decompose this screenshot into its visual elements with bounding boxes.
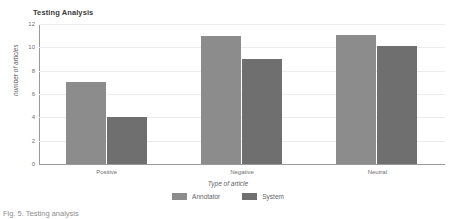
- y-tick-label: 0: [32, 161, 35, 167]
- bar-positive-system: [107, 117, 147, 164]
- y-tick-label: 4: [32, 114, 35, 120]
- legend-label-system: System: [262, 193, 284, 200]
- legend-swatch-system: [242, 193, 257, 200]
- chart-title: Testing Analysis: [33, 8, 93, 17]
- grid-line: [39, 24, 445, 25]
- chart-legend: AnnotatorSystem: [0, 193, 456, 200]
- x-axis-line: [39, 164, 445, 165]
- bar-negative-annotator: [201, 36, 241, 164]
- y-tick-label: 6: [32, 91, 35, 97]
- legend-swatch-annotator: [172, 193, 187, 200]
- y-tick-label: 2: [32, 138, 35, 144]
- legend-item-system[interactable]: System: [242, 193, 284, 200]
- y-tick-label: 8: [32, 68, 35, 74]
- legend-label-annotator: Annotator: [192, 193, 220, 200]
- figure-caption: Fig. 5. Testing analysis: [3, 209, 79, 218]
- bar-positive-annotator: [66, 82, 106, 164]
- x-tick-label-neutral: Neutral: [368, 169, 387, 175]
- bar-negative-system: [242, 59, 282, 164]
- figure-container: Testing Analysis number of articles 0246…: [0, 0, 456, 219]
- legend-item-annotator[interactable]: Annotator: [172, 193, 220, 200]
- x-tick-label-positive: Positive: [96, 169, 117, 175]
- x-axis-title: Type of article: [0, 180, 456, 187]
- y-axis-title: number of articles: [12, 44, 19, 96]
- bar-neutral-annotator: [336, 35, 376, 165]
- plot-area: 024681012PositiveNegativeNeutral: [39, 24, 445, 165]
- x-tick-label-negative: Negative: [230, 169, 254, 175]
- bar-neutral-system: [377, 46, 417, 164]
- y-tick-label: 10: [28, 44, 35, 50]
- y-tick-label: 12: [28, 21, 35, 27]
